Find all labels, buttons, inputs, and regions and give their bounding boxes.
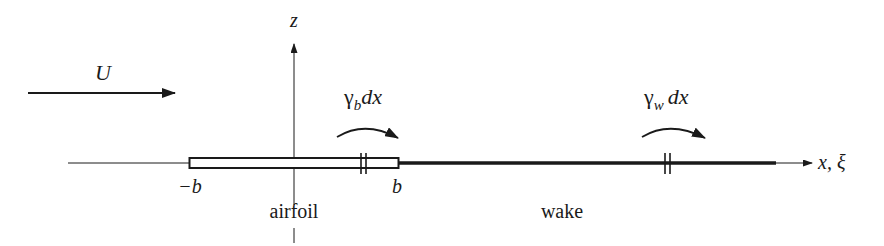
bound-vortex-label: γbdx — [343, 84, 382, 113]
z-axis-label: z — [289, 9, 298, 31]
diagram-canvas: U z x, ξ γbdx γ — [0, 0, 884, 246]
airfoil-plate — [190, 158, 399, 168]
wake-vortex-label: γwdx — [643, 84, 689, 113]
wake-label: wake — [541, 200, 583, 222]
trailing-edge-label: b — [392, 175, 402, 197]
bound-circulation-arrow-icon — [337, 129, 398, 138]
airfoil-label: airfoil — [270, 200, 319, 222]
x-axis-label: x, ξ — [817, 151, 846, 173]
wake-circulation-arrow-icon — [642, 129, 705, 138]
leading-edge-label: −b — [178, 175, 202, 197]
freestream-label: U — [95, 60, 113, 85]
airfoil-wake-diagram: U z x, ξ γbdx γ — [0, 0, 884, 246]
